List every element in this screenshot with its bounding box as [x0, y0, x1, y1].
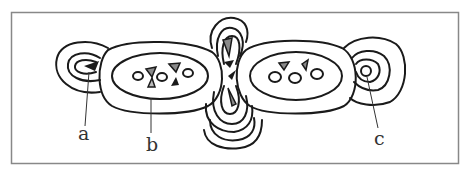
circle-icon [269, 72, 281, 82]
circle-icon [361, 66, 371, 76]
label-a: a [78, 122, 89, 144]
oval-b [99, 42, 222, 114]
label-c: c [374, 127, 385, 149]
triangle-icon [279, 62, 289, 70]
triangle-icon [228, 70, 236, 80]
triangle-icon [224, 60, 234, 68]
triangle-a-icon [84, 61, 99, 71]
circle-icon [289, 73, 301, 83]
diagram: a b c [0, 0, 472, 172]
triangle-icon [302, 60, 308, 70]
triangle-icon [223, 38, 232, 56]
central-lobes [204, 18, 262, 149]
label-b: b [146, 133, 158, 155]
circle-icon [183, 69, 193, 77]
circle-icon [311, 69, 323, 79]
circle-icon [133, 72, 143, 80]
triangle-icon [146, 67, 156, 77]
circle-icon [157, 73, 167, 81]
triangle-icon [169, 63, 180, 72]
oval-right [237, 41, 356, 114]
leader-line-c [367, 77, 378, 128]
triangle-icon [228, 88, 236, 106]
triangle-icon [171, 77, 179, 86]
triangle-icon [148, 78, 155, 87]
